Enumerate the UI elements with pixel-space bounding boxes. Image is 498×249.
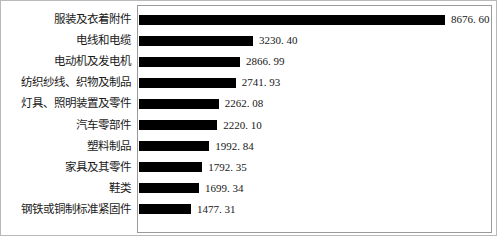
bar — [139, 120, 217, 130]
category-label: 纺织纱线、织物及制品 — [0, 72, 131, 93]
bar — [139, 141, 209, 151]
bar-value-label: 2866. 99 — [246, 51, 285, 72]
category-label: 电动机及发电机 — [0, 51, 131, 72]
bar-row: 灯具、照明装置及零件2262. 08 — [0, 93, 498, 114]
bar — [139, 36, 253, 46]
bar-chart: 服装及衣着附件8676. 60电线和电缆3230. 40电动机及发电机2866.… — [0, 0, 498, 249]
bar-rows: 服装及衣着附件8676. 60电线和电缆3230. 40电动机及发电机2866.… — [0, 0, 498, 249]
category-label: 电线和电缆 — [0, 30, 131, 51]
bar-row: 电动机及发电机2866. 99 — [0, 51, 498, 72]
bar — [139, 99, 219, 109]
bar-value-label: 1699. 34 — [205, 178, 244, 199]
category-label: 钢铁或铜制标准紧固件 — [0, 199, 131, 220]
bar-row: 钢铁或铜制标准紧固件1477. 31 — [0, 199, 498, 220]
bar-value-label: 1992. 84 — [215, 136, 254, 157]
bar-value-label: 2262. 08 — [225, 93, 264, 114]
bar-row: 服装及衣着附件8676. 60 — [0, 9, 498, 30]
bar — [139, 78, 236, 88]
category-label: 家具及其零件 — [0, 157, 131, 178]
bar — [139, 162, 202, 172]
category-label: 服装及衣着附件 — [0, 9, 131, 30]
bar — [139, 57, 240, 67]
bar-row: 纺织纱线、织物及制品2741. 93 — [0, 72, 498, 93]
bar — [139, 183, 199, 193]
bar-value-label: 1477. 31 — [197, 199, 236, 220]
bar-row: 塑料制品1992. 84 — [0, 136, 498, 157]
category-label: 鞋类 — [0, 178, 131, 199]
bar-value-label: 3230. 40 — [259, 30, 298, 51]
category-label: 灯具、照明装置及零件 — [0, 93, 131, 114]
bar-value-label: 8676. 60 — [451, 9, 490, 30]
bar-row: 鞋类1699. 34 — [0, 178, 498, 199]
bar-row: 电线和电缆3230. 40 — [0, 30, 498, 51]
bar-row: 汽车零部件2220. 10 — [0, 115, 498, 136]
category-label: 汽车零部件 — [0, 115, 131, 136]
bar-value-label: 1792. 35 — [208, 157, 247, 178]
bar — [139, 204, 191, 214]
bar — [139, 15, 445, 25]
bar-value-label: 2220. 10 — [223, 115, 262, 136]
bar-row: 家具及其零件1792. 35 — [0, 157, 498, 178]
bar-value-label: 2741. 93 — [242, 72, 281, 93]
category-label: 塑料制品 — [0, 136, 131, 157]
